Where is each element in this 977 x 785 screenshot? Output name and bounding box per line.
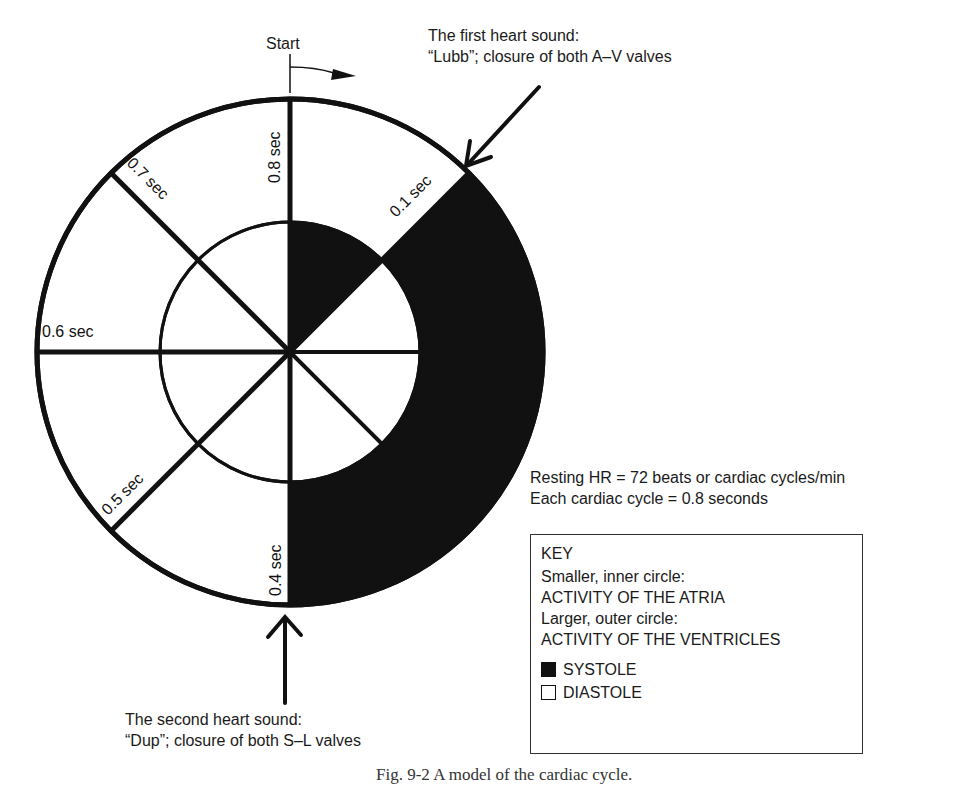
heart-rate-notes: Resting HR = 72 beats or cardiac cycles/… [530, 467, 845, 509]
key-systole-item: SYSTOLE [541, 658, 862, 681]
label-0-6-sec: 0.6 sec [42, 323, 94, 340]
key-outer-value: ACTIVITY OF THE VENTRICLES [541, 629, 862, 650]
first-heart-sound-line1: The first heart sound: [428, 25, 672, 46]
diastole-swatch-icon [541, 685, 556, 700]
key-inner-value: ACTIVITY OF THE ATRIA [541, 587, 862, 608]
start-label: Start [266, 34, 300, 54]
key-inner-label: Smaller, inner circle: [541, 566, 862, 587]
diastole-label: DIASTOLE [563, 684, 642, 702]
key-title: KEY [541, 543, 862, 564]
second-sound-arrow-icon [268, 617, 301, 703]
cycle-length-note: Each cardiac cycle = 0.8 seconds [530, 488, 845, 509]
second-heart-sound-label: The second heart sound: “Dup”; closure o… [125, 709, 361, 751]
second-heart-sound-line2: “Dup”; closure of both S–L valves [125, 730, 361, 751]
label-0-4-sec: 0.4 sec [267, 544, 284, 596]
systole-swatch-icon [541, 662, 556, 677]
figure-caption: Fig. 9-2 A model of the cardiac cycle. [376, 765, 632, 785]
key-diastole-item: DIASTOLE [541, 681, 862, 704]
first-heart-sound-line2: “Lubb”; closure of both A–V valves [428, 46, 672, 67]
start-arrow-icon [331, 69, 356, 80]
second-heart-sound-line1: The second heart sound: [125, 709, 361, 730]
resting-hr-note: Resting HR = 72 beats or cardiac cycles/… [530, 467, 845, 488]
first-heart-sound-label: The first heart sound: “Lubb”; closure o… [428, 25, 672, 67]
start-marker [290, 54, 334, 93]
label-0-8-sec: 0.8 sec [266, 131, 283, 183]
key-outer-label: Larger, outer circle: [541, 608, 862, 629]
first-sound-arrow-icon [466, 87, 539, 166]
key-legend-box: KEY Smaller, inner circle: ACTIVITY OF T… [530, 534, 863, 754]
systole-label: SYSTOLE [563, 661, 637, 679]
